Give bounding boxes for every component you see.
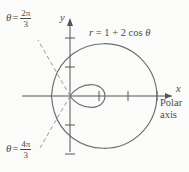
fraction-2pi-3: 2π 3 xyxy=(20,9,31,29)
tangent-line-upper xyxy=(38,40,70,96)
fraction-denominator-lower: 3 xyxy=(20,151,31,160)
polar-axis-line-1: Polar xyxy=(160,97,182,109)
theta-lower-label: θ= 4π 3 xyxy=(6,140,31,160)
polar-axis-label: Polar axis xyxy=(160,97,182,120)
y-axis-label: y xyxy=(60,13,65,24)
theta-symbol-upper: θ xyxy=(6,11,11,23)
equation-theta-symbol: θ xyxy=(145,27,150,38)
polar-axis-line-2: axis xyxy=(160,109,182,121)
theta-upper-label: θ= 2π 3 xyxy=(6,9,31,29)
tangent-line-lower xyxy=(40,96,70,148)
fraction-denominator-upper: 3 xyxy=(20,20,31,29)
fraction-4pi-3: 4π 3 xyxy=(20,140,31,160)
equals-sign-upper: = xyxy=(12,12,18,23)
x-axis-label: x xyxy=(176,84,181,95)
x-axis xyxy=(22,93,172,99)
fraction-numerator-upper: 2π xyxy=(20,9,31,18)
equation-body: = 1 + 2 cos xyxy=(93,27,145,38)
polar-graph-figure: θ= 2π 3 θ= 4π 3 r = 1 + 2 cos θ y x Pola… xyxy=(0,0,189,172)
equals-sign-lower: = xyxy=(12,143,18,154)
fraction-numerator-lower: 4π xyxy=(20,140,31,149)
equation-label: r = 1 + 2 cos θ xyxy=(89,28,150,39)
theta-symbol-lower: θ xyxy=(6,142,11,154)
